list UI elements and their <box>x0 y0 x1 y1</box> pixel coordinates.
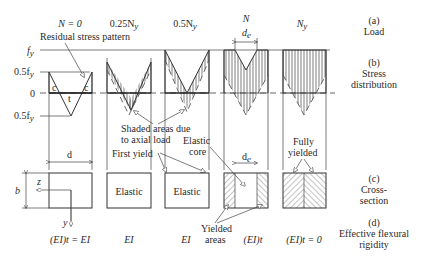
load-label-4: Ny <box>296 18 308 31</box>
svg-text:(EI)t = 0: (EI)t = 0 <box>286 234 322 246</box>
svg-text:Elastic: Elastic <box>183 135 211 146</box>
svg-text:yielded: yielded <box>288 147 317 158</box>
svg-text:d: d <box>67 149 72 160</box>
svg-text:First yield: First yield <box>112 148 153 159</box>
cross-section-2: Elastic <box>165 173 209 208</box>
row-label-stress: (b) Stress distribution <box>351 57 397 90</box>
svg-text:c: c <box>84 82 89 93</box>
load-label-1: 0.25Ny <box>110 18 139 31</box>
cross-section-1: Elastic <box>107 173 151 208</box>
rigidity-labels: (EI)t = EI EI EI (EI)t (EI)t = 0 <box>50 234 322 246</box>
shaded-areas-note: Shaded areas due to axial load <box>121 110 191 145</box>
svg-text:EI: EI <box>180 234 191 245</box>
load-label-3: N <box>242 13 251 24</box>
stress-col-1 <box>107 62 151 115</box>
svg-text:Residual stress pattern: Residual stress pattern <box>40 31 130 42</box>
svg-text:c: c <box>52 82 57 93</box>
svg-text:(EI)t = EI: (EI)t = EI <box>50 234 91 246</box>
svg-text:rigidity: rigidity <box>359 239 388 250</box>
svg-text:Elastic: Elastic <box>173 186 201 197</box>
svg-text:Shaded areas due: Shaded areas due <box>121 123 191 134</box>
load-label-0: N = 0 <box>57 18 81 29</box>
stress-col-4 <box>283 50 326 115</box>
stress-diagram: (a) Load (b) Stress distribution (c) Cro… <box>0 0 423 266</box>
cross-section-0: d b z y <box>15 149 92 228</box>
svg-text:Elastic: Elastic <box>115 186 143 197</box>
svg-text:Stress: Stress <box>362 68 386 79</box>
row-label-cross-section: (c) Cross- section <box>360 173 388 206</box>
svg-text:y: y <box>62 217 68 228</box>
svg-text:de: de <box>242 151 251 164</box>
row-label-load: (a) Load <box>364 15 385 37</box>
svg-text:EI: EI <box>123 234 134 245</box>
load-label-2: 0.5Ny <box>173 18 197 31</box>
svg-text:b: b <box>15 185 20 196</box>
svg-text:0.5fy: 0.5fy <box>14 66 34 79</box>
svg-text:0: 0 <box>30 88 35 99</box>
svg-text:core: core <box>189 146 207 157</box>
svg-text:0.5fy: 0.5fy <box>14 110 34 123</box>
svg-text:z: z <box>36 176 41 187</box>
stress-col-3: de <box>224 27 268 115</box>
elastic-core-note: Elastic core <box>183 135 245 186</box>
svg-text:Yielded: Yielded <box>201 223 232 234</box>
stress-col-0: c c t <box>49 72 92 116</box>
svg-text:Fully: Fully <box>293 136 314 147</box>
row-label-rigidity: (d) Effective flexural rigidity <box>339 217 409 250</box>
stress-col-2 <box>165 50 209 112</box>
cross-section-3: de <box>224 151 268 208</box>
svg-text:section: section <box>360 195 388 206</box>
svg-text:Cross-: Cross- <box>361 184 387 195</box>
svg-text:fy: fy <box>27 45 34 58</box>
load-labels: N = 0 0.25Ny 0.5Ny N Ny <box>57 13 307 31</box>
svg-text:Load: Load <box>364 26 385 37</box>
residual-stress-note: Residual stress pattern <box>40 31 130 77</box>
svg-text:Effective flexural: Effective flexural <box>339 228 409 239</box>
fully-yielded-note: Fully yielded <box>288 136 317 172</box>
svg-text:to axial load: to axial load <box>121 134 170 145</box>
svg-text:de: de <box>242 27 251 40</box>
svg-text:t: t <box>68 93 71 104</box>
svg-text:areas: areas <box>205 234 226 245</box>
cross-section-4 <box>283 173 326 208</box>
svg-text:(EI)t: (EI)t <box>244 234 263 246</box>
svg-text:distribution: distribution <box>351 79 397 90</box>
